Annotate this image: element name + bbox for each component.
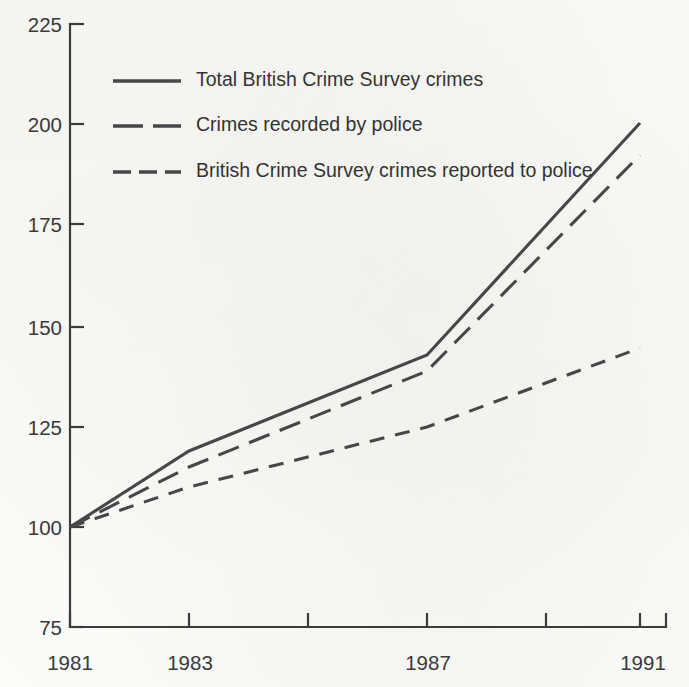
x-label-1983: 1983 <box>167 651 213 674</box>
x-label-1987: 1987 <box>405 651 451 674</box>
y-label-150: 150 <box>28 316 62 339</box>
legend-item-crimes-recorded-by-police: Crimes recorded by police <box>113 113 423 135</box>
x-label-1991: 1991 <box>620 651 666 674</box>
y-label-100: 100 <box>28 516 62 539</box>
legend-label-total-bcs-crimes: Total British Crime Survey crimes <box>196 68 483 90</box>
line-chart: 225 200 175 150 125 100 75 1981 1983 198… <box>0 0 689 687</box>
series-line-total-bcs-crimes <box>70 123 640 527</box>
plot-area: 225 200 175 150 125 100 75 1981 1983 198… <box>0 0 689 687</box>
legend-label-crimes-recorded-by-police: Crimes recorded by police <box>196 113 423 135</box>
x-axis-labels: 1981 1983 1987 1991 <box>47 651 666 674</box>
y-label-225: 225 <box>28 13 62 36</box>
y-label-75: 75 <box>39 616 62 639</box>
y-label-125: 125 <box>28 416 62 439</box>
y-axis-labels: 225 200 175 150 125 100 75 <box>28 13 62 639</box>
legend-item-bcs-crimes-reported-to-police: British Crime Survey crimes reported to … <box>113 159 593 181</box>
x-label-1981: 1981 <box>47 651 93 674</box>
legend-item-total-bcs-crimes: Total British Crime Survey crimes <box>113 68 483 90</box>
y-label-200: 200 <box>28 113 62 136</box>
y-axis-ticks <box>70 24 84 627</box>
x-axis-ticks <box>70 613 666 627</box>
legend: Total British Crime Survey crimes Crimes… <box>113 68 593 181</box>
y-label-175: 175 <box>28 213 62 236</box>
series-line-bcs-crimes-reported-to-police <box>70 348 640 527</box>
legend-label-bcs-crimes-reported-to-police: British Crime Survey crimes reported to … <box>196 159 593 181</box>
